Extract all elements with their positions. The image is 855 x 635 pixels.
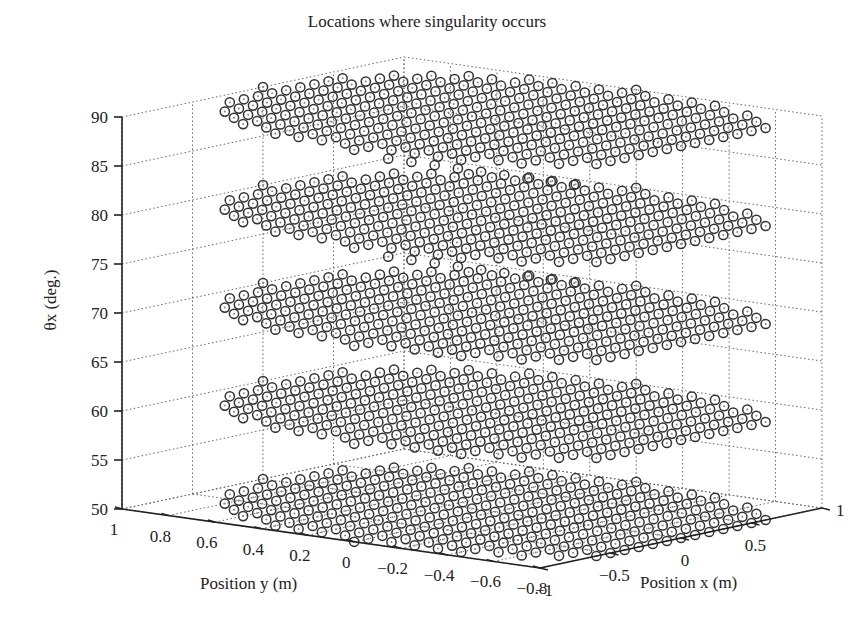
data-point-center — [579, 493, 581, 495]
data-point-center — [736, 133, 738, 135]
data-point-center — [285, 481, 287, 483]
data-point-center — [479, 343, 481, 345]
data-point-center — [266, 298, 268, 300]
data-point-center — [322, 506, 324, 508]
data-point-center — [504, 100, 506, 102]
data-point-center — [555, 514, 557, 516]
data-point-center — [454, 78, 456, 80]
data-point-center — [714, 105, 716, 107]
data-point-center — [303, 225, 305, 227]
data-point-center — [522, 407, 524, 409]
data-point-center — [365, 81, 367, 83]
data-point-center — [727, 225, 729, 227]
data-point-center — [363, 130, 365, 132]
data-point-center — [512, 327, 514, 329]
data-point-center — [550, 524, 552, 526]
data-point-center — [456, 339, 458, 341]
data-point-center — [465, 346, 467, 348]
data-point-center — [722, 430, 724, 432]
data-point-center — [312, 525, 314, 527]
data-point-center — [513, 107, 515, 109]
data-point-center — [694, 436, 696, 438]
data-point-center — [261, 111, 263, 113]
data-point-center — [401, 327, 403, 329]
data-point-center — [532, 511, 534, 513]
data-point-center — [365, 375, 367, 377]
data-point-center — [345, 510, 347, 512]
data-point-center — [718, 513, 720, 515]
data-point-center — [242, 221, 244, 223]
data-point-center — [367, 244, 369, 246]
y-tick-label: −0.2 — [377, 559, 408, 578]
data-point-center — [480, 514, 482, 516]
data-point-center — [410, 112, 412, 114]
data-point-center — [331, 121, 333, 123]
data-point-center — [625, 303, 627, 305]
data-point-center — [401, 131, 403, 133]
data-point-center — [430, 296, 432, 298]
data-point-center — [509, 189, 511, 191]
data-point-center — [691, 298, 693, 300]
data-point-center — [440, 81, 442, 83]
data-point-center — [476, 498, 478, 500]
data-point-center — [355, 491, 357, 493]
data-point-center — [499, 306, 501, 308]
data-point-center — [555, 122, 557, 124]
data-point-center — [415, 103, 417, 105]
data-point-center — [498, 428, 500, 430]
data-point-center — [563, 252, 565, 254]
data-point-center — [486, 480, 488, 482]
data-point-center — [386, 428, 388, 430]
data-point-center — [681, 218, 683, 220]
data-point-center — [378, 494, 380, 496]
data-point-center — [662, 133, 664, 135]
data-point-center — [341, 396, 343, 398]
data-point-center — [346, 93, 348, 95]
data-point-center — [420, 216, 422, 218]
data-point-center — [619, 338, 621, 340]
data-point-center — [327, 399, 329, 401]
data-point-center — [615, 224, 617, 226]
data-point-center — [229, 493, 231, 495]
data-point-center — [328, 276, 330, 278]
data-point-center — [586, 157, 588, 159]
data-point-center — [323, 482, 325, 484]
data-point-center — [233, 215, 235, 217]
data-point-center — [437, 156, 439, 158]
data-point-center — [532, 315, 534, 317]
data-point-center — [342, 273, 344, 275]
data-point-center — [448, 406, 450, 408]
data-point-center — [643, 439, 645, 441]
data-point-center — [578, 126, 580, 128]
data-point-center — [337, 87, 339, 89]
data-point-center — [322, 408, 324, 410]
data-point-center — [621, 484, 623, 486]
data-point-center — [454, 274, 456, 276]
data-point-center — [629, 123, 631, 125]
data-point-center — [485, 211, 487, 213]
data-point-center — [681, 512, 683, 514]
data-point-center — [508, 214, 510, 216]
data-point-center — [517, 122, 519, 124]
data-point-center — [472, 287, 474, 289]
data-point-center — [369, 96, 371, 98]
data-point-center — [545, 239, 547, 241]
data-point-center — [471, 214, 473, 216]
data-point-center — [512, 425, 514, 427]
data-point-center — [337, 283, 339, 285]
data-point-center — [393, 467, 395, 469]
data-point-center — [677, 399, 679, 401]
data-point-center — [630, 98, 632, 100]
data-point-center — [559, 138, 561, 140]
data-point-center — [741, 124, 743, 126]
data-point-center — [313, 83, 315, 85]
data-point-center — [765, 127, 767, 129]
data-point-center — [279, 319, 281, 321]
data-point-center — [284, 506, 286, 508]
data-point-center — [337, 479, 339, 481]
data-point-center — [460, 355, 462, 357]
data-point-center — [294, 390, 296, 392]
data-point-center — [256, 414, 258, 416]
data-point-center — [586, 255, 588, 257]
data-point-center — [634, 114, 636, 116]
